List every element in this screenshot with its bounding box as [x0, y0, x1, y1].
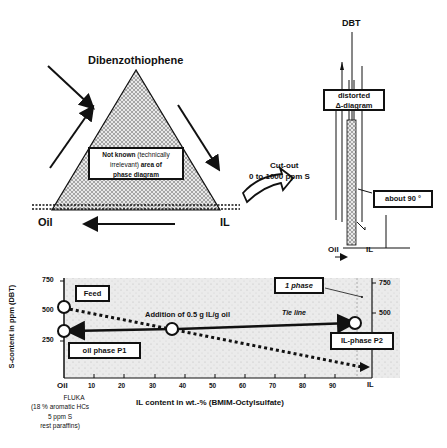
cutout-range: 0 to 1000 ppm S [249, 172, 310, 181]
distorted-box-line2: Δ-diagram [325, 101, 383, 111]
fluka-line3: 5 ppm S [20, 412, 100, 422]
y-right-tick-750: 750 [379, 279, 391, 286]
one-phase-label-box: 1 phase [274, 277, 324, 294]
x-axis-label: IL content in wt.-% (BMIM-Octylsulfate) [136, 398, 284, 407]
cutout-label: Cut-out [270, 161, 298, 170]
addition-label: Addition of 0.5 g IL/g oil [145, 310, 230, 319]
oil-phase-label-box: oil phase P1 [68, 342, 141, 359]
unknown-box-line2-bold: area of [141, 161, 162, 168]
fluka-line4: rest paraffins) [20, 421, 100, 431]
fluka-line2: (18 % aromatic HCs [20, 402, 100, 412]
apex-label-dbt: DBT [342, 18, 361, 28]
tie-line-label: Tie line [282, 309, 306, 316]
distorted-corner-oil: Oil [328, 245, 339, 254]
y-tick-250: 250 [42, 336, 54, 343]
x-tick-40: 40 [179, 382, 186, 389]
feed-label-box: Feed [75, 285, 110, 302]
x-tick-80: 80 [299, 382, 306, 389]
unknown-box-line2-rest: irrelevant) [110, 161, 141, 168]
unknown-area-box: Not known (technically irrelevant) area … [88, 147, 184, 180]
unknown-box-line1-bold: Not known [102, 151, 135, 158]
il-phase-label-box: IL-phase P2 [330, 332, 394, 350]
distorted-box-line1: distorted [325, 91, 383, 101]
corner-label-oil: Oil [38, 216, 53, 228]
y-tick-500: 500 [42, 306, 54, 313]
x-tick-20: 20 [118, 382, 125, 389]
y-tick-750: 750 [42, 276, 54, 283]
distorted-corner-il: IL [366, 245, 373, 254]
fluka-details: (18 % aromatic HCs 5 ppm S rest paraffin… [20, 402, 100, 431]
unknown-box-line1-rest: (technically [135, 151, 169, 158]
distorted-diagram-box: distorted Δ-diagram [323, 89, 385, 111]
distorted-triangle [335, 32, 410, 257]
unknown-box-line3: phase diagram [90, 170, 182, 180]
x-tick-10: 10 [88, 382, 95, 389]
x-tick-70: 70 [269, 382, 276, 389]
ternary-triangle [32, 66, 240, 224]
x-tick-il: IL [367, 380, 374, 389]
x-tick-30: 30 [149, 382, 156, 389]
y-axis-label: S-content in ppm (DBT) [7, 272, 16, 382]
apex-label-dibenzothiophene: Dibenzothiophene [88, 54, 183, 66]
angle-label-box: about 90 ° [373, 190, 433, 208]
x-tick-50: 50 [209, 382, 216, 389]
y-right-tick-500: 500 [379, 309, 391, 316]
corner-label-il: IL [220, 216, 230, 228]
x-tick-60: 60 [239, 382, 246, 389]
x-tick-90: 90 [329, 382, 336, 389]
x-tick-oil: Oil [57, 381, 68, 390]
